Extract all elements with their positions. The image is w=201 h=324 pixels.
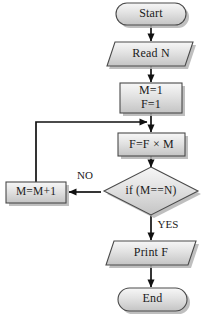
node-compute[interactable]: F=F × M [118, 133, 188, 159]
decision-label: if (M==N) [126, 184, 177, 197]
flowchart-svg: Start Read N M=1 F=1 F=F × M if (M==N) [0, 0, 201, 324]
edge-label-no: NO [77, 169, 93, 181]
read-label: Read N [132, 46, 170, 60]
node-end[interactable]: End [118, 288, 190, 314]
end-label: End [143, 291, 163, 305]
compute-label: F=F × M [129, 137, 174, 151]
flowchart-canvas: Start Read N M=1 F=1 F=F × M if (M==N) [0, 0, 201, 324]
node-read[interactable]: Read N [107, 42, 196, 69]
init-label-f: F=1 [141, 97, 161, 111]
node-increment[interactable]: M=M+1 [6, 182, 69, 206]
node-decision[interactable]: if (M==N) [104, 167, 201, 218]
node-start[interactable]: Start [116, 3, 189, 28]
print-label: Print F [134, 245, 169, 259]
init-label-m: M=1 [139, 83, 163, 97]
node-init[interactable]: M=1 F=1 [120, 83, 185, 116]
increment-label: M=M+1 [16, 185, 56, 197]
node-print[interactable]: Print F [106, 241, 199, 268]
edge-label-yes: YES [158, 218, 179, 230]
start-label: Start [139, 6, 163, 20]
